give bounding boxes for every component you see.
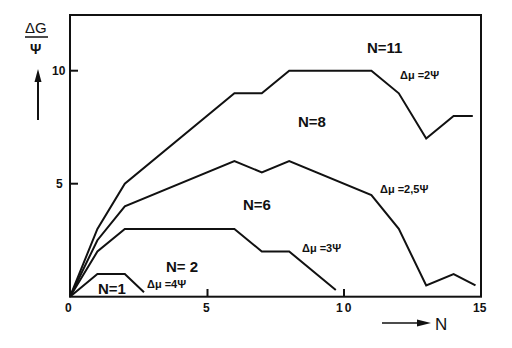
y-tick-label-10: 10 bbox=[52, 64, 66, 78]
label-n1: N=1 bbox=[98, 280, 126, 297]
y-axis-arrow-icon bbox=[35, 69, 42, 120]
x-axis-label: N bbox=[435, 315, 447, 334]
x-tick-label-0: 0 bbox=[65, 301, 72, 315]
label-mu-3: Δμ =3Ψ bbox=[302, 242, 341, 254]
chart: 10 5 0 5 10 15 ΔG Ψ N N=11 N=8 N=6 N= 2 … bbox=[0, 0, 512, 348]
plot-frame bbox=[70, 15, 481, 297]
x-tick-label-10: 10 bbox=[336, 301, 353, 315]
y-tick-label-5: 5 bbox=[56, 177, 63, 191]
label-mu-4: Δμ =4Ψ bbox=[147, 278, 186, 290]
label-n6: N=6 bbox=[243, 196, 271, 213]
y-axis-label-denominator: Ψ bbox=[30, 41, 41, 57]
label-mu-2-5: Δμ =2,5Ψ bbox=[380, 183, 428, 195]
x-axis-arrow-icon bbox=[382, 320, 431, 327]
x-tick-label-5: 5 bbox=[203, 301, 210, 315]
label-n8: N=8 bbox=[298, 113, 326, 130]
label-mu-2: Δμ =2Ψ bbox=[400, 69, 439, 81]
label-n2: N= 2 bbox=[166, 258, 198, 275]
x-tick-label-15: 15 bbox=[473, 301, 487, 315]
y-axis-label-numerator: ΔG bbox=[25, 19, 47, 36]
label-n11: N=11 bbox=[367, 39, 402, 56]
